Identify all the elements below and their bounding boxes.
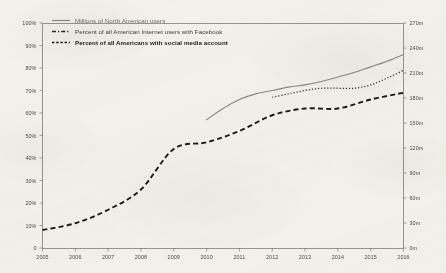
left-axis: 010%20%30%40%50%60%70%80%90%100%: [22, 20, 42, 251]
x-axis-tick-label: 2010: [200, 254, 212, 260]
right-axis-tick-label: 180m: [410, 95, 424, 101]
left-axis-tick-label: 40%: [25, 155, 36, 161]
right-axis-tick-label: 0m: [410, 245, 418, 251]
legend-label-1: Percent of all American Internet users w…: [75, 28, 223, 35]
legend-item-1: Percent of all American Internet users w…: [52, 28, 223, 35]
left-axis-tick-label: 10%: [25, 223, 36, 229]
x-axis-tick-label: 2007: [102, 254, 114, 260]
left-axis-tick-label: 30%: [25, 178, 36, 184]
series-line-millions-north-american-users: [207, 55, 404, 120]
right-axis-tick-label: 90m: [410, 170, 421, 176]
right-axis-tick-label: 30m: [410, 220, 421, 226]
right-axis-tick-label: 150m: [410, 120, 424, 126]
legend-item-0: Millions of North American users: [52, 17, 165, 24]
x-axis-tick-label: 2014: [332, 254, 344, 260]
chart-legend: Millions of North American users Percent…: [52, 17, 228, 46]
line-chart: 010%20%30%40%50%60%70%80%90%100% 0m30m60…: [0, 0, 446, 273]
left-axis-tick-label: 100%: [22, 20, 36, 26]
x-axis-tick-label: 2016: [397, 254, 409, 260]
x-axis-tick-label: 2012: [266, 254, 278, 260]
x-axis-tick-label: 2015: [364, 254, 376, 260]
left-axis-tick-label: 50%: [25, 133, 36, 139]
left-axis-tick-label: 20%: [25, 200, 36, 206]
right-axis-tick-label: 60m: [410, 195, 421, 201]
plot-frame: [43, 23, 404, 249]
series-group: [43, 55, 404, 231]
x-axis-tick-label: 2008: [135, 254, 147, 260]
left-axis-tick-label: 60%: [25, 110, 36, 116]
x-axis: 2005200620072008200920102011201220132014…: [36, 248, 409, 260]
x-axis-tick-label: 2006: [69, 254, 81, 260]
x-axis-tick-label: 2009: [168, 254, 180, 260]
x-axis-tick-label: 2011: [233, 254, 245, 260]
right-axis-tick-label: 270m: [410, 20, 424, 26]
legend-item-2: Percent of all Americans with social med…: [52, 39, 228, 46]
series-line-percent-internet-users-facebook: [272, 70, 403, 97]
left-axis-tick-label: 80%: [25, 65, 36, 71]
right-axis-tick-label: 210m: [410, 70, 424, 76]
series-line-percent-americans-social-media: [43, 93, 404, 230]
x-axis-tick-label: 2005: [36, 254, 48, 260]
right-axis-tick-label: 240m: [410, 45, 424, 51]
legend-label-2: Percent of all Americans with social med…: [75, 39, 228, 46]
x-axis-tick-label: 2013: [299, 254, 311, 260]
left-axis-tick-label: 90%: [25, 43, 36, 49]
right-axis-tick-label: 120m: [410, 145, 424, 151]
left-axis-tick-label: 70%: [25, 88, 36, 94]
right-axis: 0m30m60m90m120m150m180m210m240m270m: [404, 20, 424, 251]
chart-container: 010%20%30%40%50%60%70%80%90%100% 0m30m60…: [0, 0, 446, 273]
legend-label-0: Millions of North American users: [75, 17, 165, 24]
left-axis-tick-label: 0: [33, 245, 36, 251]
